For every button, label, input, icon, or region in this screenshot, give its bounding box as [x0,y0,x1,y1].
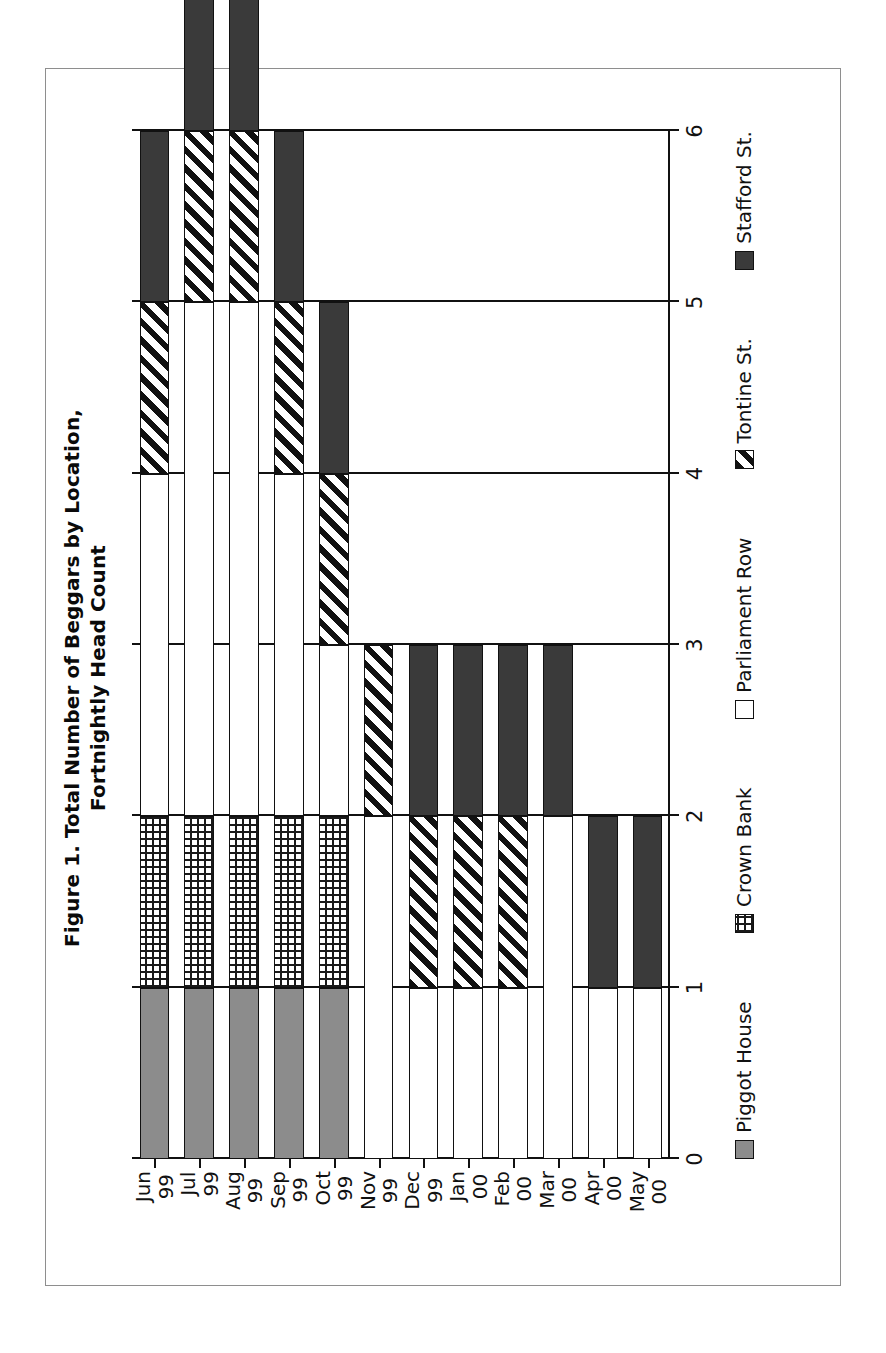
category-label: Sep99 [267,1171,312,1209]
bar-group [409,131,439,1159]
bar-segment[interactable] [498,645,528,816]
category-tick [513,1159,515,1168]
bar-segment[interactable] [184,988,214,1159]
bar-segment[interactable] [229,0,259,131]
category-label: Feb00 [491,1171,536,1206]
legend-swatch [735,700,754,719]
bar-segment[interactable] [140,816,170,987]
bar-segment[interactable] [140,302,170,473]
bar-group [140,131,170,1159]
category-tick [379,1159,381,1168]
category-label: Nov99 [356,1171,401,1210]
bar-segment[interactable] [229,816,259,987]
bar-segment[interactable] [319,645,349,816]
value-tick [670,986,679,988]
category-label-line: Apr [580,1171,602,1206]
bar-segment[interactable] [409,816,439,987]
bar-segment[interactable] [633,988,663,1159]
bar-segment[interactable] [498,816,528,987]
bar-segment[interactable] [543,645,573,816]
category-label-line: Mar [536,1171,558,1209]
category-tick [468,1159,470,1168]
value-tick-label: 0 [683,1152,707,1165]
category-label-line: Oct [311,1171,333,1206]
category-label-line: Aug [222,1171,244,1210]
bar-segment[interactable] [274,302,304,473]
category-tick [199,1159,201,1168]
bar-group [633,131,663,1159]
legend-item[interactable]: Parliament Row [732,538,756,719]
bar-segment[interactable] [319,988,349,1159]
bar-segment[interactable] [364,645,394,816]
chart-legend: Piggot HouseCrown BankParliament RowTont… [722,131,766,1159]
bar-group [274,131,304,1159]
legend-item[interactable]: Stafford St. [732,131,756,270]
category-tick [423,1159,425,1168]
bar-segment[interactable] [274,131,304,302]
legend-label: Stafford St. [732,131,756,244]
value-tick [670,1157,679,1159]
bar-segment[interactable] [453,816,483,987]
value-tick-label: 3 [683,638,707,651]
bar-segment[interactable] [184,131,214,302]
bar-segment[interactable] [543,816,573,1159]
bar-segment[interactable] [184,302,214,816]
bar-segment[interactable] [364,816,394,1159]
category-label-line: Jul [177,1171,199,1196]
bar-segment[interactable] [140,988,170,1159]
bar-segment[interactable] [274,816,304,987]
value-tick [670,472,679,474]
bar-segment[interactable] [319,816,349,987]
legend-item[interactable]: Tontine St. [732,338,756,469]
value-tick-label: 6 [683,124,707,137]
bar-segment[interactable] [453,645,483,816]
bar-segment[interactable] [229,302,259,816]
category-tick [558,1159,560,1168]
legend-item[interactable]: Piggot House [732,1001,756,1159]
category-label-line: 99 [244,1171,266,1210]
category-tick [154,1159,156,1168]
category-label-line: 00 [603,1171,625,1206]
bar-segment[interactable] [319,474,349,645]
bar-segment[interactable] [229,988,259,1159]
bar-segment[interactable] [409,988,439,1159]
legend-swatch [735,1140,754,1159]
bar-segment[interactable] [274,474,304,817]
bar-segment[interactable] [274,988,304,1159]
category-label-line: Sep [267,1171,289,1209]
bar-segment[interactable] [184,0,214,131]
category-tick [648,1159,650,1168]
category-label: May00 [625,1171,670,1212]
bar-segment[interactable] [588,816,618,987]
bar-segment[interactable] [453,988,483,1159]
category-label: Oct99 [311,1171,356,1206]
legend-label: Parliament Row [732,538,756,693]
category-label-line: 00 [558,1171,580,1209]
legend-swatch [735,251,754,270]
bar-group [319,131,349,1159]
value-tick [670,643,679,645]
category-label-line: 00 [513,1171,535,1206]
legend-item[interactable]: Crown Bank [732,787,756,933]
bar-segment[interactable] [319,302,349,473]
bar-segment[interactable] [184,816,214,987]
bar-segment[interactable] [633,816,663,987]
category-tick [334,1159,336,1168]
bar-segment[interactable] [409,645,439,816]
value-tick [670,129,679,131]
category-label: Aug99 [222,1171,267,1210]
category-label-line: May [625,1171,647,1212]
category-tick [244,1159,246,1168]
bar-group [229,131,259,1159]
category-label-line: 99 [379,1171,401,1210]
category-label-line: Jun [132,1171,154,1202]
bar-group [498,131,528,1159]
bar-segment[interactable] [140,474,170,817]
bar-segment[interactable] [229,131,259,302]
bar-segment[interactable] [588,988,618,1159]
chart-title-line-2: Fortnightly Head Count [86,69,112,1287]
bar-segment[interactable] [498,988,528,1159]
legend-label: Crown Bank [732,787,756,907]
bar-segment[interactable] [140,131,170,302]
figure-frame: Figure 1. Total Number of Beggars by Loc… [45,68,841,1286]
